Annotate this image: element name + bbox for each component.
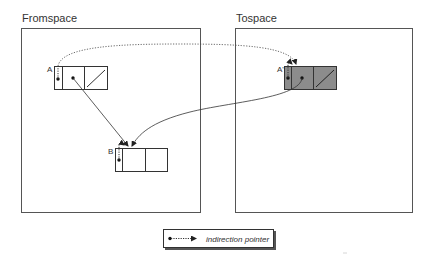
pointer-a-prime-to-b	[132, 78, 302, 146]
indirection-arrow-a-to-a-prime	[58, 44, 296, 66]
object-a	[55, 67, 108, 90]
object-a-prime	[285, 63, 337, 90]
object-a-prime-label: A'	[277, 65, 284, 74]
gc-diagram: A B A' indirection pointer	[0, 0, 431, 269]
legend: indirection pointer	[164, 230, 274, 248]
object-a-label: A	[47, 65, 53, 74]
fromspace-region	[22, 29, 201, 213]
object-b-label: B	[108, 147, 113, 156]
object-b	[116, 144, 168, 172]
tospace-region	[236, 29, 413, 213]
legend-text: indirection pointer	[206, 235, 269, 244]
